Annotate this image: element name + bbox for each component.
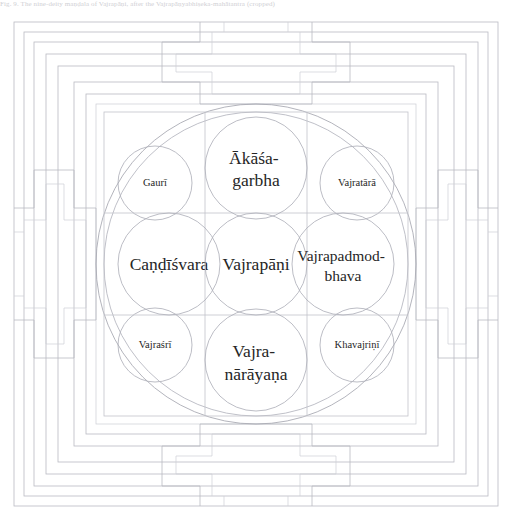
gate-south-outer xyxy=(162,424,350,506)
deity-label-n: Ākāśa- garbha xyxy=(229,148,283,190)
deity-label-sw: Vajraśrī xyxy=(139,339,173,350)
deity-label-ne: Vajratārā xyxy=(338,177,376,188)
deity-cell-n[interactable]: Ākāśa- garbha xyxy=(205,117,307,219)
gate-east-outer xyxy=(416,170,498,358)
deity-label-se: Khavajriṇī xyxy=(335,339,381,351)
deity-cell-sw[interactable]: Vajraśrī xyxy=(118,308,192,382)
deity-label-w: Caṇḍīśvara xyxy=(130,254,209,274)
deity-cell-ne[interactable]: Vajratārā xyxy=(320,146,394,220)
deity-cell-nw[interactable]: Gaurī xyxy=(118,146,192,220)
deity-cell-se[interactable]: Khavajriṇī xyxy=(320,308,394,382)
deity-label-nw: Gaurī xyxy=(143,177,168,188)
gate-north-outer xyxy=(162,22,350,104)
gate-west-outer xyxy=(14,170,96,358)
deity-label-s: Vajra- nārāyaṇa xyxy=(224,341,287,384)
deity-cell-s[interactable]: Vajra- nārāyaṇa xyxy=(205,309,307,411)
mandala-diagram: Gaurī Ākāśa- garbha Vajratārā Caṇḍīśvara xyxy=(0,0,512,524)
deity-label-center: Vajrapāṇi xyxy=(222,254,289,274)
gate-north xyxy=(162,22,350,104)
deity-label-e: Vajrapadmod- bhava xyxy=(297,247,389,284)
mandala-page: Fig. 9. The nine-deity maṇḍala of Vajrap… xyxy=(0,0,512,524)
gate-west xyxy=(14,170,96,358)
gate-east xyxy=(416,170,498,358)
gate-south xyxy=(162,424,350,506)
